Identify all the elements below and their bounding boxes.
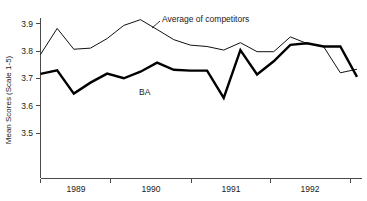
y-tick-label-3.5: 3.5 [21, 128, 33, 138]
line-chart: Mean Scores (Scale 1-5) 3.9 3.8 3.7 3.6 … [0, 0, 367, 201]
y-axis-ticks: 3.9 3.8 3.7 3.6 3.5 [21, 19, 40, 139]
x-axis-ticks: 1989 1990 1991 1992 [41, 179, 351, 195]
annotation-label-ba: BA [139, 87, 151, 97]
x-tick-label-1989: 1989 [67, 184, 86, 194]
annotation-ba: BA [139, 87, 151, 97]
y-tick-label-3.8: 3.8 [21, 46, 33, 56]
x-tick-label-1990: 1990 [142, 184, 161, 194]
annotation-leader-competitors [152, 21, 160, 28]
y-tick-label-3.6: 3.6 [21, 101, 33, 111]
y-axis-title: Mean Scores (Scale 1-5) [4, 55, 13, 144]
annotation-average-of-competitors: Average of competitors [152, 14, 249, 28]
chart-container: Mean Scores (Scale 1-5) 3.9 3.8 3.7 3.6 … [0, 0, 367, 201]
x-tick-label-1992: 1992 [301, 184, 320, 194]
series-line-ba [41, 43, 358, 98]
x-tick-label-1991: 1991 [222, 184, 241, 194]
annotation-label-competitors: Average of competitors [162, 14, 249, 24]
y-tick-label-3.7: 3.7 [21, 73, 33, 83]
series-line-average-of-competitors [41, 20, 358, 73]
y-tick-label-3.9: 3.9 [21, 19, 33, 29]
